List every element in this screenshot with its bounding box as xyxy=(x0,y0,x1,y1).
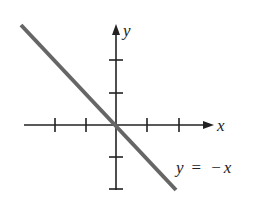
y-axis-arrow-icon xyxy=(112,24,120,35)
eq-minus: − xyxy=(211,158,221,177)
x-axis-label: x xyxy=(216,116,225,135)
line-y-equals-neg-x xyxy=(21,25,176,190)
x-axis-arrow-icon xyxy=(203,121,214,129)
y-axis-label: y xyxy=(121,21,131,40)
eq-x: x xyxy=(223,158,232,177)
equation-label: y=−x xyxy=(174,158,232,177)
eq-y: y xyxy=(174,158,184,177)
eq-equals: = xyxy=(192,158,202,177)
coordinate-plane: y x y=−x xyxy=(0,0,258,206)
